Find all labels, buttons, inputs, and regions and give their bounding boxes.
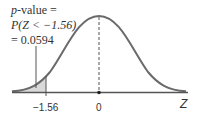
mean-point [97,91,101,95]
annotation-label: p-value = P(Z < −1.56) = 0.0594 [11,4,76,47]
tick-label-zero: 0 [96,102,102,113]
tick-label-minus-1-56: −1.56 [33,102,58,113]
shaded-tail [12,77,46,93]
axis-label-z: Z [180,97,187,111]
pvalue-text: -value = [17,3,57,17]
probability-expression: P(Z < −1.56) [11,18,76,32]
pvalue-number: = 0.0594 [11,34,76,47]
